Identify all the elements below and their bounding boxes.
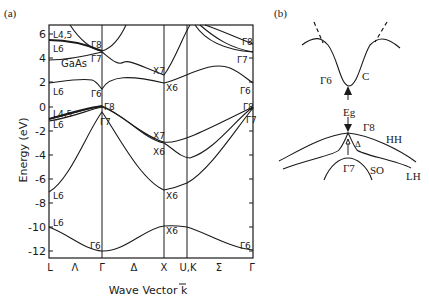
svg-text:-10: -10 <box>28 221 46 234</box>
y-tick-labels: 6 4 2 0 -2 -4 -6 -8 -10 -12 <box>28 28 46 258</box>
svg-text:SO: SO <box>370 164 384 176</box>
svg-text:Γ7: Γ7 <box>237 55 248 65</box>
svg-text:L6: L6 <box>53 44 64 54</box>
material-label: GaAs <box>61 58 87 69</box>
svg-text:X: X <box>161 262 168 273</box>
svg-text:0: 0 <box>39 101 46 114</box>
svg-text:L6: L6 <box>53 218 64 228</box>
svg-text:X7: X7 <box>153 66 165 76</box>
svg-text:C: C <box>362 70 369 82</box>
svg-text:Γ6: Γ6 <box>320 74 332 86</box>
panel-a-label: (a) <box>4 7 17 20</box>
svg-text:-4: -4 <box>35 149 46 162</box>
svg-text:Γ7: Γ7 <box>100 117 111 127</box>
svg-text:Σ: Σ <box>216 262 222 273</box>
svg-text:L6: L6 <box>53 191 64 201</box>
svg-text:L4,5: L4,5 <box>53 30 72 40</box>
svg-text:HH: HH <box>386 133 402 145</box>
svg-text:-6: -6 <box>35 173 46 186</box>
schematic-bands <box>279 22 416 180</box>
svg-text:Γ7: Γ7 <box>343 162 355 174</box>
band-structure-figure: (a) 6 4 2 0 -2 -4 -6 -8 -10 -12 Energy (… <box>0 0 429 304</box>
panel-b-label: (b) <box>274 7 287 20</box>
svg-text:U,K: U,K <box>179 262 196 273</box>
svg-text:L: L <box>47 262 53 273</box>
svg-text:Γ7: Γ7 <box>91 54 102 64</box>
svg-text:X7: X7 <box>153 131 165 141</box>
svg-text:X6: X6 <box>166 83 178 93</box>
svg-text:Λ: Λ <box>72 262 79 273</box>
svg-text:-8: -8 <box>35 197 46 210</box>
svg-text:Γ6: Γ6 <box>90 241 101 251</box>
svg-text:2: 2 <box>39 76 46 89</box>
svg-text:Γ6: Γ6 <box>240 86 251 96</box>
svg-text:Γ6: Γ6 <box>91 89 102 99</box>
x-tick-labels: L Λ Γ Δ X U,K Σ Γ <box>47 262 255 273</box>
svg-text:Γ6: Γ6 <box>240 241 251 251</box>
svg-text:L4,5: L4,5 <box>53 109 72 119</box>
svg-text:L6: L6 <box>53 87 64 97</box>
svg-text:Γ8: Γ8 <box>363 121 375 133</box>
svg-text:4: 4 <box>39 52 46 65</box>
svg-text:X6: X6 <box>166 191 178 201</box>
y-axis-label: Energy (eV) <box>17 118 30 183</box>
svg-text:L6: L6 <box>53 120 64 130</box>
x-axis-label: Wave Vector k <box>109 284 188 297</box>
svg-text:Γ7: Γ7 <box>246 115 257 125</box>
band-labels: L4,5 L6 GaAs L6 L4,5 L6 L6 L6 Γ8 Γ7 Γ6 Γ… <box>53 30 257 251</box>
svg-text:Γ: Γ <box>99 262 105 273</box>
svg-text:Γ8: Γ8 <box>243 102 254 112</box>
svg-text:Γ8: Γ8 <box>91 40 102 50</box>
svg-text:Γ: Γ <box>249 262 255 273</box>
svg-text:X6: X6 <box>153 147 165 157</box>
svg-text:-2: -2 <box>35 125 46 138</box>
svg-text:Eg: Eg <box>343 106 356 118</box>
svg-text:6: 6 <box>39 28 46 41</box>
svg-text:Γ8: Γ8 <box>242 37 253 47</box>
svg-text:Δ: Δ <box>131 262 138 273</box>
svg-text:-12: -12 <box>28 245 46 258</box>
svg-text:LH: LH <box>406 170 421 182</box>
svg-text:X6: X6 <box>166 226 178 236</box>
svg-text:Δ: Δ <box>355 139 361 149</box>
svg-text:Γ8: Γ8 <box>104 102 115 112</box>
